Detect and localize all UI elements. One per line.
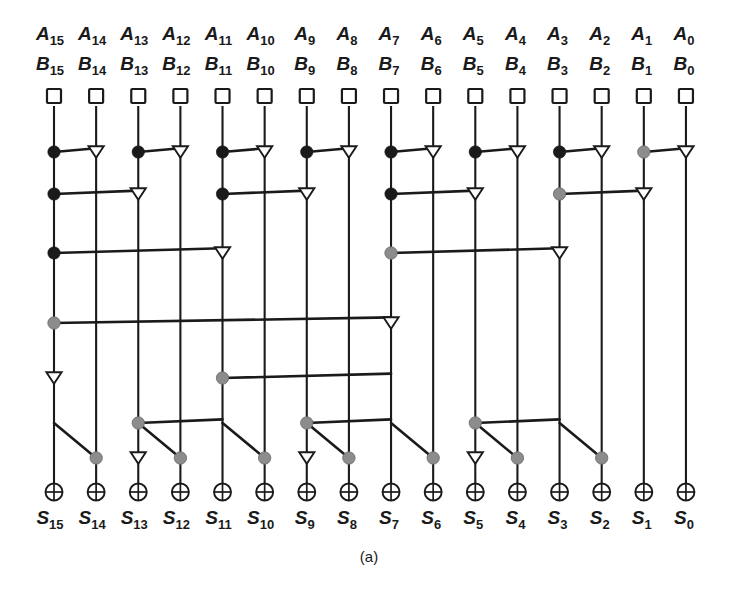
gray-prefix-cell (216, 372, 228, 384)
pg-generation-cell (426, 89, 440, 103)
pg-generation-cell (468, 89, 482, 103)
pg-generation-cell (637, 89, 651, 103)
pg-generation-cell (595, 89, 609, 103)
gray-prefix-cell (174, 452, 186, 464)
pg-generation-cell (342, 89, 356, 103)
pg-generation-cell (553, 89, 567, 103)
prefix-adder-diagram: A15B15S15A14B14S14A13B13S13A12B12S12A11B… (0, 0, 738, 598)
gray-prefix-cell (553, 188, 565, 200)
black-prefix-cell (301, 146, 313, 158)
black-prefix-cell (48, 247, 60, 259)
gray-prefix-cell (132, 417, 144, 429)
pg-generation-cell (258, 89, 272, 103)
black-prefix-cell (48, 146, 60, 158)
gray-prefix-cell (511, 452, 523, 464)
black-prefix-cell (216, 146, 228, 158)
black-prefix-cell (216, 188, 228, 200)
pg-generation-cell (131, 89, 145, 103)
black-prefix-cell (553, 146, 565, 158)
pg-generation-cell (47, 89, 61, 103)
pg-generation-cell (384, 89, 398, 103)
gray-prefix-cell (301, 417, 313, 429)
black-prefix-cell (48, 188, 60, 200)
black-prefix-cell (385, 188, 397, 200)
gray-prefix-cell (343, 452, 355, 464)
black-prefix-cell (132, 146, 144, 158)
gray-prefix-cell (469, 417, 481, 429)
canvas-background (0, 0, 738, 598)
gray-prefix-cell (90, 452, 102, 464)
black-prefix-cell (469, 146, 481, 158)
gray-prefix-cell (258, 452, 270, 464)
pg-generation-cell (173, 89, 187, 103)
pg-generation-cell (89, 89, 103, 103)
gray-prefix-cell (595, 452, 607, 464)
gray-prefix-cell (638, 146, 650, 158)
gray-prefix-cell (427, 452, 439, 464)
black-prefix-cell (385, 146, 397, 158)
gray-prefix-cell (385, 247, 397, 259)
pg-generation-cell (300, 89, 314, 103)
pg-generation-cell (216, 89, 230, 103)
figure-caption: (a) (360, 548, 378, 565)
gray-prefix-cell (48, 317, 60, 329)
pg-generation-cell (510, 89, 524, 103)
pg-generation-cell (679, 89, 693, 103)
prefix-adder-figure: A15B15S15A14B14S14A13B13S13A12B12S12A11B… (0, 0, 738, 598)
